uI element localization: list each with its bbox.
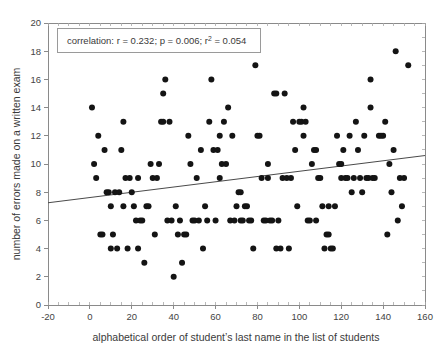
data-point	[141, 260, 147, 266]
data-point	[196, 217, 202, 223]
data-point	[359, 189, 365, 195]
x-tick-label: 0	[87, 311, 92, 322]
y-axis-title: number of errors made on a written exam	[10, 67, 22, 260]
annotation-text: correlation: r = 0.232; p = 0.006; r2 = …	[67, 35, 246, 46]
data-point	[177, 217, 183, 223]
data-point	[223, 161, 229, 167]
data-point	[93, 175, 99, 181]
data-point	[129, 189, 135, 195]
data-point	[131, 203, 137, 209]
data-point	[162, 76, 168, 82]
x-axis-tick-labels: -20020406080100120140160	[41, 311, 433, 322]
data-point	[292, 147, 298, 153]
data-point	[353, 119, 359, 125]
data-point	[355, 147, 361, 153]
data-point	[347, 133, 353, 139]
data-point	[217, 175, 223, 181]
data-point	[99, 232, 105, 238]
data-point	[286, 246, 292, 252]
data-point	[114, 246, 120, 252]
data-point	[351, 175, 357, 181]
data-point	[91, 161, 97, 167]
y-tick-label: 2	[36, 271, 41, 282]
data-point	[319, 203, 325, 209]
data-point	[104, 189, 110, 195]
data-point	[166, 119, 172, 125]
data-point	[116, 189, 122, 195]
data-point	[275, 217, 281, 223]
x-tick-label: 40	[168, 311, 179, 322]
data-point	[173, 203, 179, 209]
data-point	[393, 48, 399, 54]
y-tick-label: 16	[30, 74, 41, 85]
data-point	[198, 147, 204, 153]
data-point	[273, 91, 279, 97]
data-point	[229, 133, 235, 139]
chart-canvas: -20020406080100120140160 024681012141618…	[0, 0, 446, 352]
data-point	[120, 119, 126, 125]
data-point	[248, 217, 254, 223]
data-point	[326, 232, 332, 238]
data-point	[290, 119, 296, 125]
data-point	[244, 203, 250, 209]
data-point	[187, 161, 193, 167]
x-tick-label: 120	[333, 311, 349, 322]
data-point	[183, 232, 189, 238]
data-point	[384, 232, 390, 238]
data-point	[202, 203, 208, 209]
data-point	[231, 217, 237, 223]
x-tick-label: 20	[126, 311, 137, 322]
data-point	[156, 161, 162, 167]
data-point	[382, 119, 388, 125]
data-point	[345, 175, 351, 181]
data-point	[277, 246, 283, 252]
data-point	[215, 147, 221, 153]
data-point	[334, 133, 340, 139]
data-point	[148, 161, 154, 167]
data-point	[238, 189, 244, 195]
data-point	[108, 203, 114, 209]
data-point	[171, 274, 177, 280]
data-point	[120, 203, 126, 209]
annotation-prefix: correlation: r = 0.232; p = 0.006; r	[67, 35, 208, 46]
data-point	[160, 119, 166, 125]
x-tick-label: 160	[417, 311, 433, 322]
x-tick-label: 140	[375, 311, 391, 322]
x-axis-ticks	[48, 305, 425, 309]
data-point	[294, 203, 300, 209]
data-point	[303, 119, 309, 125]
y-tick-label: 4	[36, 243, 41, 254]
data-point	[265, 161, 271, 167]
data-point	[152, 232, 158, 238]
data-point	[194, 175, 200, 181]
data-point	[146, 203, 152, 209]
annotation-suffix: = 0.054	[212, 35, 247, 46]
data-point	[401, 175, 407, 181]
data-point	[340, 147, 346, 153]
y-tick-label: 10	[30, 158, 41, 169]
y-axis-tick-labels: 02468101214161820	[30, 17, 41, 310]
y-tick-label: 6	[36, 215, 41, 226]
data-point	[204, 217, 210, 223]
data-point	[139, 217, 145, 223]
plot-frame	[48, 23, 425, 305]
data-point	[399, 203, 405, 209]
data-point	[110, 232, 116, 238]
data-point	[368, 76, 374, 82]
data-point	[405, 62, 411, 68]
data-point	[313, 147, 319, 153]
data-point	[164, 217, 170, 223]
data-point	[386, 161, 392, 167]
data-point	[361, 133, 367, 139]
data-point	[102, 147, 108, 153]
x-tick-label: 80	[252, 311, 263, 322]
y-tick-label: 0	[36, 299, 41, 310]
data-point	[370, 175, 376, 181]
data-point	[338, 161, 344, 167]
data-point	[125, 246, 131, 252]
y-tick-label: 8	[36, 187, 41, 198]
data-point	[313, 217, 319, 223]
data-point	[179, 260, 185, 266]
data-point	[221, 119, 227, 125]
data-point	[217, 133, 223, 139]
